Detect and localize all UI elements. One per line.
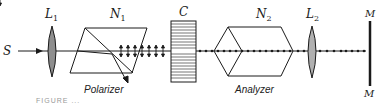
lens-l2 xyxy=(308,26,316,78)
polarizer-caption: Polarizer xyxy=(84,84,124,95)
crystal-label: C xyxy=(179,5,188,19)
source-label: S xyxy=(3,44,11,58)
ray-arrow-icon xyxy=(36,48,43,54)
figure-caption: FIGURE ... xyxy=(36,97,80,103)
screen-label-bottom: M xyxy=(363,88,375,99)
screen-label-top: M xyxy=(364,8,376,19)
analyzer-label: N2 xyxy=(255,7,272,23)
optical-diagram: S L1 N1 Polarizer xyxy=(0,0,382,103)
lens2-label: L2 xyxy=(305,7,319,23)
lens1-label: L1 xyxy=(44,7,58,23)
crystal-plate xyxy=(171,21,196,82)
analyzer-caption: Analyzer xyxy=(234,84,275,95)
polarizer-label: N1 xyxy=(109,7,126,23)
lens-l1 xyxy=(48,26,56,77)
